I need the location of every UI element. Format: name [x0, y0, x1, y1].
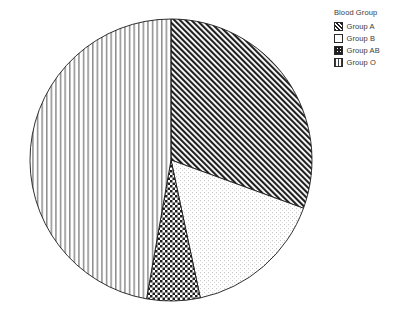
legend-label-group-a: Group A — [347, 22, 375, 31]
chart-page: Blood Group Group A Group B Group AB Gro… — [0, 0, 396, 317]
legend-item-group-a[interactable]: Group A — [334, 21, 396, 32]
legend-swatch-group-a — [334, 22, 343, 31]
legend-item-group-ab[interactable]: Group AB — [334, 45, 396, 56]
legend-swatch-group-o — [334, 58, 343, 67]
legend-item-group-b[interactable]: Group B — [334, 33, 396, 44]
pie-slice[interactable] — [30, 19, 171, 299]
legend-swatch-group-ab — [334, 46, 343, 55]
legend-swatch-group-b — [334, 34, 343, 43]
legend-label-group-b: Group B — [347, 34, 376, 43]
legend-label-group-o: Group O — [347, 58, 376, 67]
pie-chart-svg — [0, 0, 330, 317]
legend-title: Blood Group — [334, 8, 396, 18]
legend: Blood Group Group A Group B Group AB Gro… — [334, 8, 396, 69]
legend-label-group-ab: Group AB — [347, 46, 380, 55]
legend-item-group-o[interactable]: Group O — [334, 57, 396, 68]
pie-chart-area — [0, 0, 330, 317]
pie-slices-group — [30, 19, 312, 301]
